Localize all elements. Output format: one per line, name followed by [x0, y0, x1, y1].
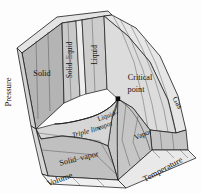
pvt-surface-svg: Pressure Solid Solid–liquid Liquid Criti…: [0, 0, 201, 193]
region-label-solid-liquid: Solid–liquid: [65, 41, 74, 78]
right-end-wall: [150, 130, 188, 150]
axis-label-pressure: Pressure: [3, 77, 13, 106]
critical-point-marker: [116, 96, 121, 101]
critical-point-label-line1: Critical: [128, 73, 153, 82]
pvt-surface-diagram: Pressure Solid Solid–liquid Liquid Criti…: [0, 0, 201, 193]
region-label-solid: Solid: [33, 69, 50, 78]
region-label-liquid: Liquid: [90, 45, 99, 65]
critical-point-label-line2: point: [128, 85, 146, 94]
